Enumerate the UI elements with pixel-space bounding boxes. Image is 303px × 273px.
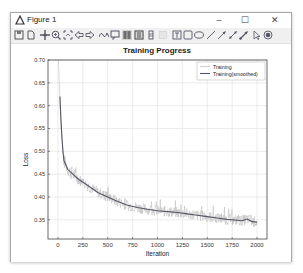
chart-title: Training Progress [123, 46, 192, 55]
double-arrow-icon[interactable] [228, 30, 238, 40]
y-tick-label: 0.65 [34, 80, 45, 86]
figure-toolbar [11, 28, 291, 44]
fit-icon[interactable] [63, 30, 73, 40]
record-icon[interactable] [263, 30, 273, 40]
forward-arrow-icon[interactable] [85, 30, 95, 40]
colorbar-icon[interactable] [146, 30, 156, 40]
x-tick-label: 1750 [225, 242, 239, 248]
text-arrow-icon[interactable] [239, 30, 249, 40]
grid-lines [48, 60, 267, 239]
legend-entry: Training [213, 64, 232, 70]
figure-window: Figure 1 – ☐ ✕ Training Progress [10, 12, 292, 262]
y-tick-label: 0.55 [34, 125, 45, 131]
legend-icon[interactable] [134, 30, 144, 40]
legend-entry: Training(smoothed) [213, 71, 258, 77]
grid-icon[interactable] [122, 30, 132, 40]
y-tick-label: 0.50 [34, 148, 45, 154]
loss-chart[interactable]: Training Progress 0250500750100012501500… [11, 44, 293, 262]
title-bar: Figure 1 – ☐ ✕ [11, 13, 291, 28]
y-axis-label: Loss [22, 152, 29, 166]
x-tick-label: 500 [103, 242, 114, 248]
zoom-icon[interactable] [51, 30, 61, 40]
blank-icon[interactable] [158, 30, 168, 40]
pan-icon[interactable] [40, 30, 50, 40]
y-tick-label: 0.70 [34, 57, 45, 63]
figure-canvas[interactable]: Training Progress 0250500750100012501500… [11, 44, 291, 262]
new-document-icon[interactable] [26, 30, 36, 40]
y-tick-label: 0.60 [34, 103, 45, 109]
maximize-button[interactable]: ☐ [233, 13, 257, 28]
window-title: Figure 1 [27, 15, 56, 24]
data-cursor-icon[interactable] [99, 30, 109, 40]
minimize-button[interactable]: – [207, 13, 231, 28]
pointer-icon[interactable] [252, 30, 262, 40]
x-tick-label: 750 [128, 242, 139, 248]
datatip-icon[interactable] [110, 30, 120, 40]
x-tick-label: 1000 [151, 242, 165, 248]
x-tick-label: 0 [56, 242, 60, 248]
chart-legend[interactable]: TrainingTraining(smoothed) [197, 62, 265, 80]
textbox-icon[interactable] [172, 30, 182, 40]
back-arrow-icon[interactable] [74, 30, 84, 40]
x-tick-label: 1500 [201, 242, 215, 248]
line-icon[interactable] [206, 30, 216, 40]
y-tick-label: 0.35 [34, 217, 45, 223]
x-tick-label: 2000 [250, 242, 264, 248]
x-tick-label: 1250 [176, 242, 190, 248]
rectangle-icon[interactable] [183, 30, 193, 40]
arrow-icon[interactable] [217, 30, 227, 40]
ellipse-icon[interactable] [194, 30, 204, 40]
x-tick-label: 250 [78, 242, 89, 248]
close-button[interactable]: ✕ [263, 13, 287, 28]
y-tick-label: 0.45 [34, 171, 45, 177]
figure-app-icon [15, 15, 25, 25]
x-axis-label: Iteration [146, 250, 170, 257]
save-icon[interactable] [14, 30, 24, 40]
training-smoothed-series [60, 97, 257, 223]
y-tick-label: 0.40 [34, 194, 45, 200]
